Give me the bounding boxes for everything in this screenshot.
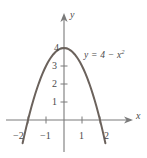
- x-tick-label-minus-1: −1: [40, 131, 51, 141]
- equation-exponent: 2: [121, 48, 124, 55]
- y-tick-label-4: 4: [54, 43, 59, 53]
- y-tick-label-2: 2: [52, 79, 57, 89]
- y-axis-name: y: [70, 10, 74, 20]
- equation-label: y = 4 − x2: [84, 51, 125, 61]
- y-tick-label-3: 3: [52, 61, 57, 71]
- x-axis-name: x: [136, 111, 140, 121]
- x-tick-label-2: 2: [104, 131, 109, 141]
- equation-lead: y = 4 − x: [84, 50, 121, 60]
- parabola-figure: 4 3 2 1 −2 −1 1 2 y x y = 4 − x2: [0, 0, 147, 158]
- x-tick-label-minus-2: −2: [13, 131, 24, 141]
- x-tick-label-1: 1: [79, 131, 84, 141]
- y-tick-label-1: 1: [52, 97, 57, 107]
